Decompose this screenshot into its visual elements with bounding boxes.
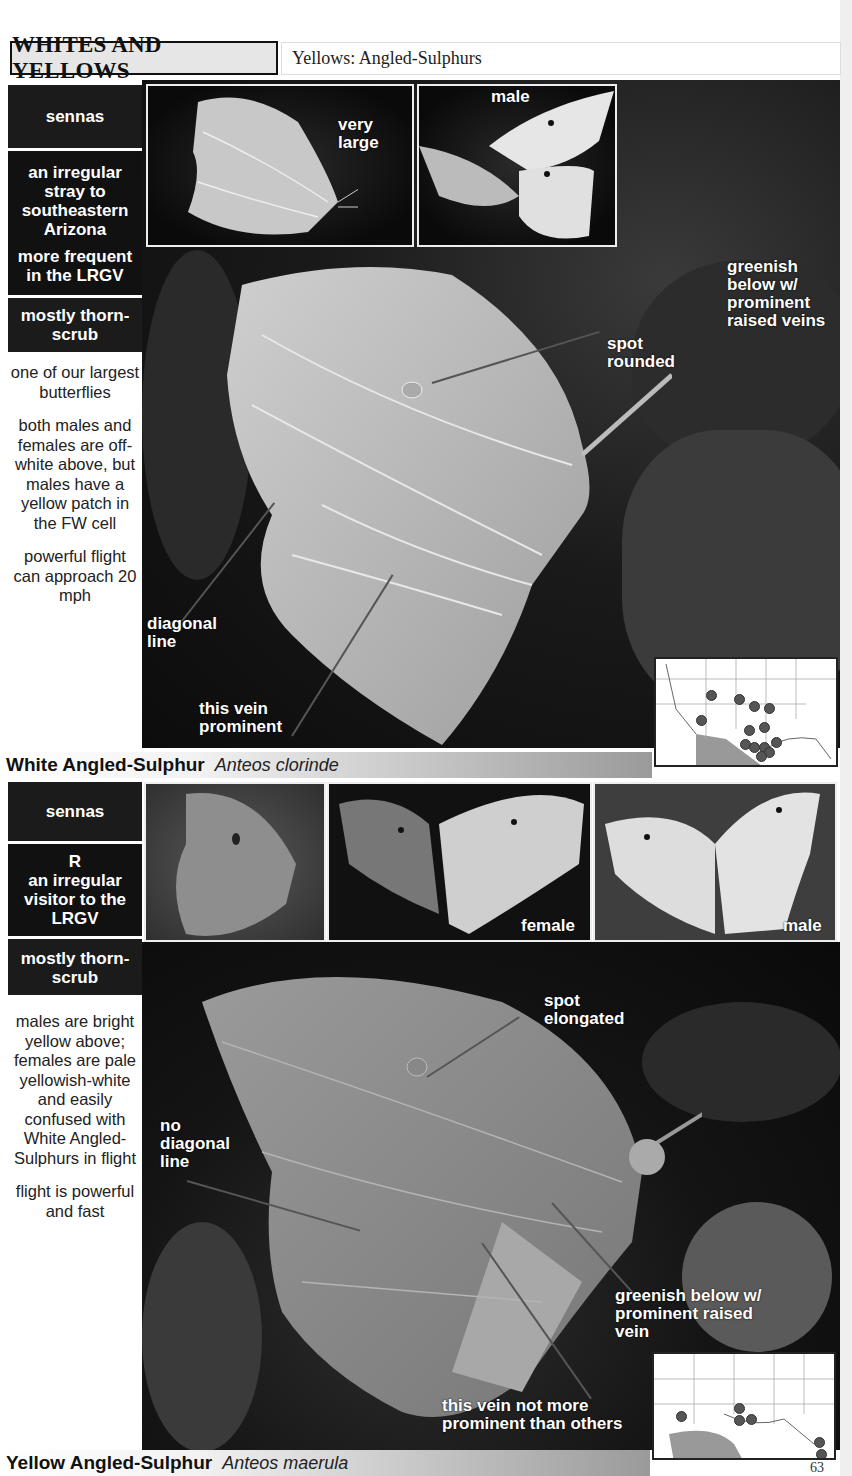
section-title-box: WHITES AND YELLOWS (10, 41, 278, 75)
label-color: greenish below w/ prominent raised veins (727, 258, 827, 330)
common-name: White Angled-Sulphur (6, 754, 205, 776)
page-edge (840, 0, 852, 1476)
page-number: 63 (810, 1460, 824, 1476)
status-box: R an irregular visitor to the LRGV (8, 844, 142, 939)
host-plant-box: sennas (8, 85, 142, 151)
label-vein: this vein not more prominent than others (442, 1397, 652, 1433)
host-plant: sennas (46, 802, 105, 821)
note: both males and females are off-white abo… (10, 416, 140, 533)
species1-sidebar: sennas an irregular stray to southeaster… (8, 85, 142, 680)
status-line: an irregular visitor to the LRGV (10, 871, 140, 928)
note: flight is powerful and fast (10, 1182, 140, 1221)
status-line: an irregular stray to southeastern Arizo… (10, 163, 140, 239)
subsection-title: Yellows: Angled-Sulphurs (292, 48, 482, 69)
species2-thumb-male: male (593, 782, 837, 942)
section-title: WHITES AND YELLOWS (12, 32, 276, 84)
note: powerful flight can approach 20 mph (10, 547, 140, 606)
scientific-name: Anteos maerula (222, 1453, 348, 1474)
label-male: male (783, 917, 822, 935)
subsection-box: Yellows: Angled-Sulphurs (281, 42, 841, 75)
scientific-name: Anteos clorinde (215, 755, 339, 776)
status-line: more frequent in the LRGV (10, 247, 140, 285)
note: males are bright yellow above; females a… (10, 1012, 140, 1168)
habitat: mostly thorn-scrub (21, 949, 130, 987)
label-color: greenish below w/ prominent raised vein (615, 1287, 785, 1341)
notes-box: one of our largest butterflies both male… (8, 355, 142, 680)
habitat: mostly thorn-scrub (21, 306, 130, 344)
host-plant: sennas (46, 107, 105, 126)
species1-range-map (654, 657, 838, 767)
common-name: Yellow Angled-Sulphur (6, 1452, 212, 1474)
label-vein: this vein prominent (199, 700, 299, 736)
species1-title-bar: White Angled-Sulphur Anteos clorinde (0, 752, 652, 778)
notes-box: males are bright yellow above; females a… (8, 998, 142, 1338)
species2-range-map (652, 1352, 836, 1460)
label-female: female (521, 917, 575, 935)
species2-sidebar: sennas R an irregular visitor to the LRG… (8, 782, 142, 1338)
label-spot: spot elongated (544, 992, 644, 1028)
host-plant-box: sennas (8, 782, 142, 844)
note: one of our largest butterflies (10, 363, 140, 402)
species1-thumb-male: male (417, 84, 617, 247)
species2-thumb-female: female (327, 782, 592, 942)
status-box: an irregular stray to southeastern Arizo… (8, 151, 142, 298)
label-diagonal: diagonal line (147, 615, 237, 651)
habitat-box: mostly thorn-scrub (8, 939, 142, 998)
species1-thumb-large: very large (146, 84, 414, 247)
label-male: male (491, 88, 530, 106)
label-diagonal: no diagonal line (160, 1117, 250, 1171)
species2-title-bar: Yellow Angled-Sulphur Anteos maerula (0, 1450, 650, 1476)
label-size: very large (338, 116, 412, 152)
habitat-box: mostly thorn-scrub (8, 298, 142, 355)
label-spot: spot rounded (607, 335, 697, 371)
species2-thumb-underside (144, 782, 326, 942)
status-code: R (10, 852, 140, 871)
